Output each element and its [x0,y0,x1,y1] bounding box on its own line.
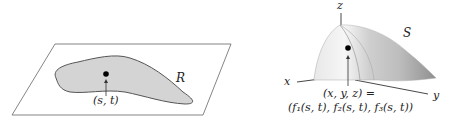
point-equation-line2: (f₁(s, t), f₂(s, t), f₃(s, t)) [283,102,418,113]
axis-label-y: y [433,90,439,101]
axis-label-x: x [284,76,290,87]
region-label-r: R [176,72,185,84]
surface-s [314,25,436,81]
region-r [55,56,193,104]
point-label-st: (s, t) [93,95,119,106]
point-equation-line1: (x, y, z) = [318,88,380,99]
point-st [103,71,109,77]
axis-label-z: z [337,0,343,11]
point-xyz [345,45,351,51]
surface-label-s: S [403,27,411,39]
